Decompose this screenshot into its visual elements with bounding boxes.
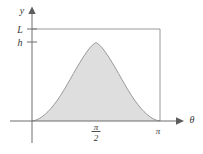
figure-container: y θ L h π 2 π — [0, 0, 203, 154]
y-tick-label-L: L — [16, 24, 23, 35]
x-tick-label-pi: π — [156, 126, 161, 136]
y-axis-label: y — [19, 5, 25, 16]
y-tick-label-h: h — [18, 37, 23, 48]
x-tick-label-pi-over-2-denominator: 2 — [94, 133, 99, 143]
x-tick-label-pi-over-2-numerator: π — [94, 122, 99, 132]
x-axis-label: θ — [190, 114, 195, 125]
x-axis-arrow-icon — [176, 117, 184, 125]
y-axis-arrow-icon — [28, 7, 35, 15]
math-figure: y θ L h π 2 π — [0, 0, 203, 154]
shaded-region — [32, 43, 160, 121]
